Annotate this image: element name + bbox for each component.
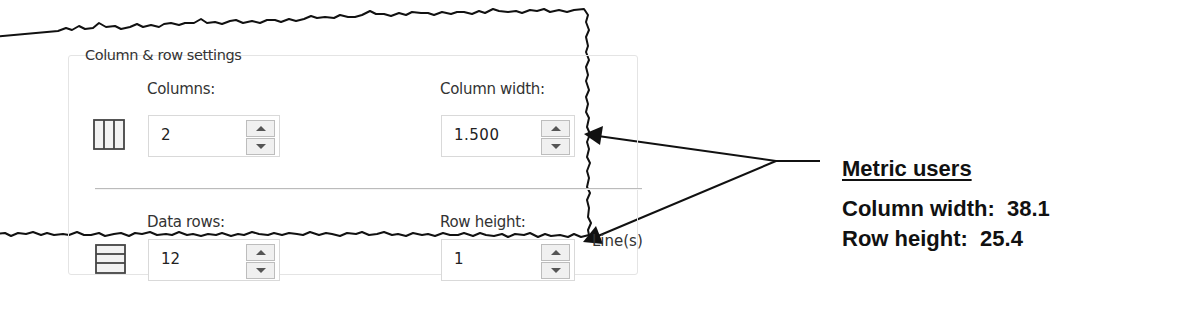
data-rows-spinner[interactable]: 12	[148, 239, 280, 281]
separator	[95, 188, 642, 190]
row-height-decrement-button[interactable]	[541, 262, 570, 279]
arrow-down-icon	[256, 144, 266, 149]
column-width-increment-button[interactable]	[541, 120, 570, 137]
row-height-value[interactable]: 1	[454, 250, 464, 268]
rows-icon	[95, 244, 127, 276]
columns-decrement-button[interactable]	[246, 138, 275, 155]
row-height-increment-button[interactable]	[541, 244, 570, 261]
arrow-up-icon	[256, 250, 266, 255]
arrow-up-icon	[256, 126, 266, 131]
row-height-spinner[interactable]: 1	[441, 239, 575, 281]
arrow-up-icon	[551, 250, 561, 255]
data-rows-increment-button[interactable]	[246, 244, 275, 261]
callout-row-height: Row height: 25.4	[842, 226, 1023, 252]
columns-icon	[93, 119, 125, 151]
data-rows-value[interactable]: 12	[161, 250, 180, 268]
column-width-label: Column width:	[440, 80, 545, 98]
row-height-label: Row height:	[440, 213, 526, 231]
arrow-down-icon	[551, 144, 561, 149]
group-title: Column & row settings	[85, 47, 241, 63]
column-width-spinner[interactable]: 1.500	[441, 115, 575, 157]
columns-increment-button[interactable]	[246, 120, 275, 137]
arrow-down-icon	[256, 268, 266, 273]
callout-title: Metric users	[842, 156, 972, 182]
columns-value[interactable]: 2	[161, 126, 171, 144]
row-height-unit: Line(s)	[592, 232, 643, 250]
column-width-value[interactable]: 1.500	[454, 126, 499, 144]
data-rows-label: Data rows:	[147, 213, 225, 231]
columns-label: Columns:	[147, 80, 215, 98]
callout-column-width: Column width: 38.1	[842, 196, 1050, 222]
arrow-up-icon	[551, 126, 561, 131]
column-width-decrement-button[interactable]	[541, 138, 570, 155]
columns-spinner[interactable]: 2	[148, 115, 280, 157]
arrow-down-icon	[551, 268, 561, 273]
data-rows-decrement-button[interactable]	[246, 262, 275, 279]
